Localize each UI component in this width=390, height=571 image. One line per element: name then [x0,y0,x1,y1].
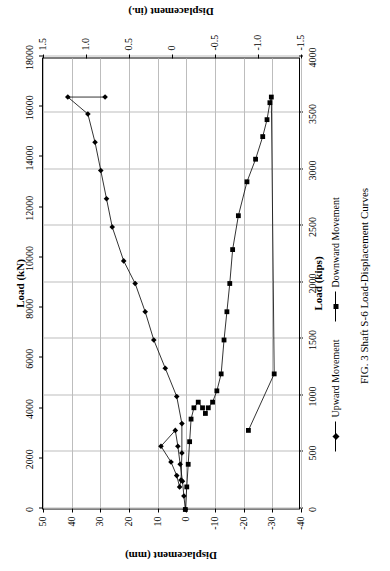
x-tick-label-primary: 0 [307,507,318,512]
square-marker-icon [253,156,258,161]
x-tick-label-primary: 1000 [307,386,318,406]
diamond-marker-icon [151,337,157,343]
x-tick-label-primary: 4000 [307,47,318,67]
square-marker-icon [245,179,250,184]
y-tick-label-primary: 10 [151,516,162,526]
x-tick-label-primary: 2500 [307,217,318,237]
square-marker-icon [200,405,205,410]
diamond-marker-icon [332,432,339,439]
y-axis-tick [301,508,302,512]
y-tick-label-secondary: 0.5 [123,38,134,51]
square-marker-icon [246,428,251,433]
square-marker-icon [206,405,211,410]
y-tick-label-primary: 50 [37,516,48,526]
gridline-horizontal [301,58,302,508]
x-tick-label-secondary: 14000 [24,145,35,170]
x-tick-label-primary: 1500 [307,330,318,350]
x-axis-title-secondary: Load (kN) [14,259,26,308]
y-tick-label-primary: -20 [237,516,248,529]
y-tick-label-secondary: -1.5 [295,34,306,50]
legend-label-downward: Downward Movement [330,197,341,287]
y-tick-label-primary: 0 [180,516,191,521]
square-marker-icon [269,94,274,99]
diamond-marker-icon [102,94,108,100]
y-tick-label-secondary: -1.0 [252,34,263,50]
y-tick-label-primary: 20 [123,516,134,526]
square-marker-icon [272,371,277,376]
square-marker-icon [210,399,215,404]
diamond-marker-icon [179,420,185,426]
diamond-marker-icon [173,427,179,433]
x-tick-label-secondary: 4000 [24,399,35,419]
series-line-upward [68,97,186,509]
square-marker-icon [227,281,232,286]
x-tick-label-secondary: 2000 [24,449,35,469]
y-tick-label-primary: -10 [209,516,220,529]
x-tick-label-primary: 3000 [307,160,318,180]
square-marker-icon [230,247,235,252]
x-tick-label-primary: 3500 [307,104,318,124]
diamond-marker-icon [175,443,181,449]
x-tick-label-secondary: 18000 [24,45,35,70]
legend-line-icon [335,421,336,451]
square-marker-icon [225,309,230,314]
diamond-marker-icon [109,224,115,230]
x-tick-label-secondary: 12000 [24,195,35,220]
diamond-marker-icon [85,111,91,117]
x-axis-title-primary: Load (kips) [312,256,324,310]
square-marker-icon [222,337,227,342]
square-marker-icon [260,134,265,139]
x-tick-label-secondary: 16000 [24,95,35,120]
diamond-marker-icon [92,139,98,145]
diamond-marker-icon [177,461,183,467]
y-tick-label-secondary: 0 [166,45,177,50]
diamond-marker-icon [162,365,168,371]
square-marker-icon [183,507,188,512]
square-marker-icon [236,213,241,218]
gridline-vertical [43,55,299,56]
plot-area: 0500100015002000250030003500400002000400… [0,0,390,571]
square-marker-icon [196,399,201,404]
square-marker-icon [203,411,208,416]
figure-root: 0500100015002000250030003500400002000400… [0,0,390,571]
y-axis-tick-secondary [301,54,302,58]
square-marker-icon [219,371,224,376]
square-marker-icon [268,100,273,105]
x-tick-label-secondary: 0 [24,507,35,512]
x-tick-label-primary: 500 [307,445,318,460]
diamond-marker-icon [174,393,180,399]
legend-item-upward: Upward Movement [330,339,341,451]
square-marker-icon [214,388,219,393]
square-marker-icon [186,461,191,466]
y-axis-title-secondary: Displacement (in.) [128,5,214,17]
diamond-marker-icon [179,450,185,456]
chart-series-layer [42,57,300,509]
diamond-marker-icon [121,258,127,264]
square-marker-icon [265,117,270,122]
square-marker-icon [333,303,338,308]
figure-caption: FIG. 3 Shaft S-6 Load-Displacement Curve… [358,0,370,571]
diamond-marker-icon [177,484,183,490]
diamond-marker-icon [104,195,110,201]
x-tick-label-secondary: 6000 [24,348,35,368]
y-tick-label-primary: -30 [266,516,277,529]
diamond-marker-icon [98,167,104,173]
y-tick-label-primary: 40 [65,516,76,526]
y-axis-title-primary: Displacement (mm) [125,549,217,561]
square-marker-icon [189,416,194,421]
square-marker-icon [187,439,192,444]
square-marker-icon [184,484,189,489]
diamond-marker-icon [142,308,148,314]
diamond-marker-icon [132,280,138,286]
y-tick-label-secondary: 1.5 [37,38,48,51]
y-tick-label-secondary: -0.5 [209,34,220,50]
square-marker-icon [192,405,197,410]
y-tick-label-secondary: 1.0 [80,38,91,51]
y-tick-label-primary: 30 [94,516,105,526]
legend-item-downward: Downward Movement [330,197,341,321]
chart-legend: Upward Movement Downward Movement [330,197,341,451]
diamond-marker-icon [174,472,180,478]
legend-line-icon [335,291,336,321]
legend-label-upward: Upward Movement [330,339,341,417]
y-tick-label-primary: -40 [295,516,306,529]
